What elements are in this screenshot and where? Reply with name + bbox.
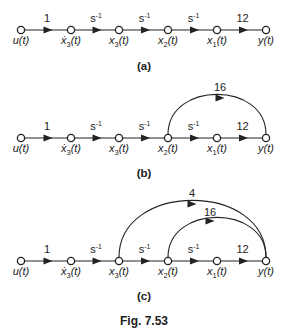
node-x3d: [67, 257, 74, 264]
branch-gain-label: s-1: [188, 243, 200, 255]
branch-gain-label: s-1: [90, 12, 102, 24]
node-label: x2(t): [157, 265, 178, 280]
arrow-head-icon: [93, 26, 102, 33]
panel-c: 4161s-1s-1s-112u(t)ẋ3(t)x3(t)x2(t)x1(t)y…: [13, 187, 275, 302]
arrow-head-icon: [93, 134, 102, 141]
arrow-head-icon: [44, 257, 53, 264]
node-y: [262, 26, 269, 33]
node-label: x2(t): [157, 142, 178, 157]
node-label: ẋ3(t): [60, 142, 81, 157]
figure-caption: Fig. 7.53: [120, 314, 168, 328]
node-label: u(t): [13, 265, 30, 277]
node-label: x1(t): [206, 34, 227, 49]
node-label: x1(t): [206, 142, 227, 157]
node-x2: [164, 134, 171, 141]
arrow-head-icon: [141, 257, 150, 264]
node-u: [17, 26, 24, 33]
branch-gain-label: 12: [236, 120, 248, 132]
branch-gain-label: 1: [44, 12, 50, 24]
node-x2: [164, 257, 171, 264]
arrow-head-icon: [141, 26, 150, 33]
node-label: u(t): [13, 34, 30, 46]
node-x3: [115, 257, 122, 264]
signal-flow-graph-figure: 1s-1s-1s-112u(t)ẋ3(t)x3(t)x2(t)x1(t)y(t)…: [0, 0, 289, 331]
arrow-head-icon: [93, 257, 102, 264]
feedforward-gain-label: 16: [204, 206, 216, 218]
arrow-head-icon: [239, 257, 248, 264]
branch-gain-label: 1: [44, 243, 50, 255]
branch-gain-label: s-1: [139, 12, 151, 24]
branch-gain-label: s-1: [139, 120, 151, 132]
arrow-head-icon: [188, 200, 197, 207]
panel-b: 161s-1s-1s-112u(t)ẋ3(t)x3(t)x2(t)x1(t)y(…: [13, 81, 275, 179]
arrow-head-icon: [190, 257, 199, 264]
node-label: x3(t): [108, 265, 129, 280]
arrow-head-icon: [141, 134, 150, 141]
panel-a: 1s-1s-1s-112u(t)ẋ3(t)x3(t)x2(t)x1(t)y(t)…: [13, 12, 275, 72]
branch-gain-label: s-1: [188, 12, 200, 24]
node-label: x3(t): [108, 34, 129, 49]
feedforward-gain-label: 16: [214, 81, 226, 93]
node-x1: [213, 26, 220, 33]
node-u: [17, 257, 24, 264]
node-label: y(t): [257, 142, 274, 154]
branch-gain-label: s-1: [90, 120, 102, 132]
arrow-head-icon: [206, 217, 215, 224]
node-label: y(t): [257, 265, 274, 277]
node-y: [262, 134, 269, 141]
panel-label: (b): [137, 167, 152, 179]
feedforward-branch: [168, 217, 266, 257]
node-x3d: [67, 134, 74, 141]
panel-label: (a): [137, 60, 151, 72]
branch-gain-label: s-1: [139, 243, 151, 255]
branch-gain-label: 12: [236, 243, 248, 255]
panel-label: (c): [137, 290, 151, 302]
node-x2: [164, 26, 171, 33]
node-x1: [213, 134, 220, 141]
node-label: x2(t): [157, 34, 178, 49]
node-label: ẋ3(t): [60, 265, 81, 280]
node-u: [17, 134, 24, 141]
arrow-head-icon: [239, 134, 248, 141]
node-x3: [115, 26, 122, 33]
node-label: ẋ3(t): [60, 34, 81, 49]
branch-gain-label: s-1: [188, 120, 200, 132]
feedforward-gain-label: 4: [189, 187, 195, 199]
node-x3: [115, 134, 122, 141]
arrow-head-icon: [44, 134, 53, 141]
node-label: x3(t): [108, 142, 129, 157]
node-x3d: [67, 26, 74, 33]
node-label: u(t): [13, 142, 30, 154]
arrow-head-icon: [239, 26, 248, 33]
arrow-head-icon: [216, 94, 225, 101]
branch-gain-label: 1: [44, 120, 50, 132]
arrow-head-icon: [44, 26, 53, 33]
node-label: y(t): [257, 34, 274, 46]
arrow-head-icon: [190, 26, 199, 33]
node-y: [262, 257, 269, 264]
arrow-head-icon: [190, 134, 199, 141]
branch-gain-label: s-1: [90, 243, 102, 255]
node-x1: [213, 257, 220, 264]
node-label: x1(t): [206, 265, 227, 280]
branch-gain-label: 12: [236, 12, 248, 24]
